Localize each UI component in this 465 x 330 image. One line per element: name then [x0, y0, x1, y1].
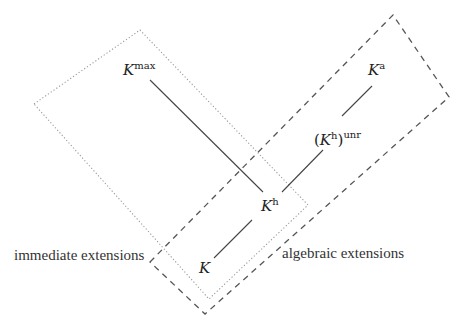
algebraic-extensions-region [150, 15, 449, 314]
node-Ka: Ka [367, 60, 385, 79]
diagram-canvas: Kmax Ka (Kh)unr Kh K immediate extension… [0, 0, 465, 330]
edge-Kh-Kmax [150, 80, 263, 192]
node-Kh: Kh [260, 196, 279, 215]
edge-Khunr-Ka [342, 86, 372, 116]
edge-K-Kh [214, 220, 252, 258]
algebraic-extensions-label: algebraic extensions [282, 245, 404, 261]
node-Kmax: Kmax [122, 60, 156, 79]
immediate-extensions-label: immediate extensions [14, 247, 145, 263]
edge-Kh-Khunr [282, 150, 323, 192]
node-K: K [198, 259, 211, 277]
node-Khunr: (Kh)unr [314, 129, 361, 149]
